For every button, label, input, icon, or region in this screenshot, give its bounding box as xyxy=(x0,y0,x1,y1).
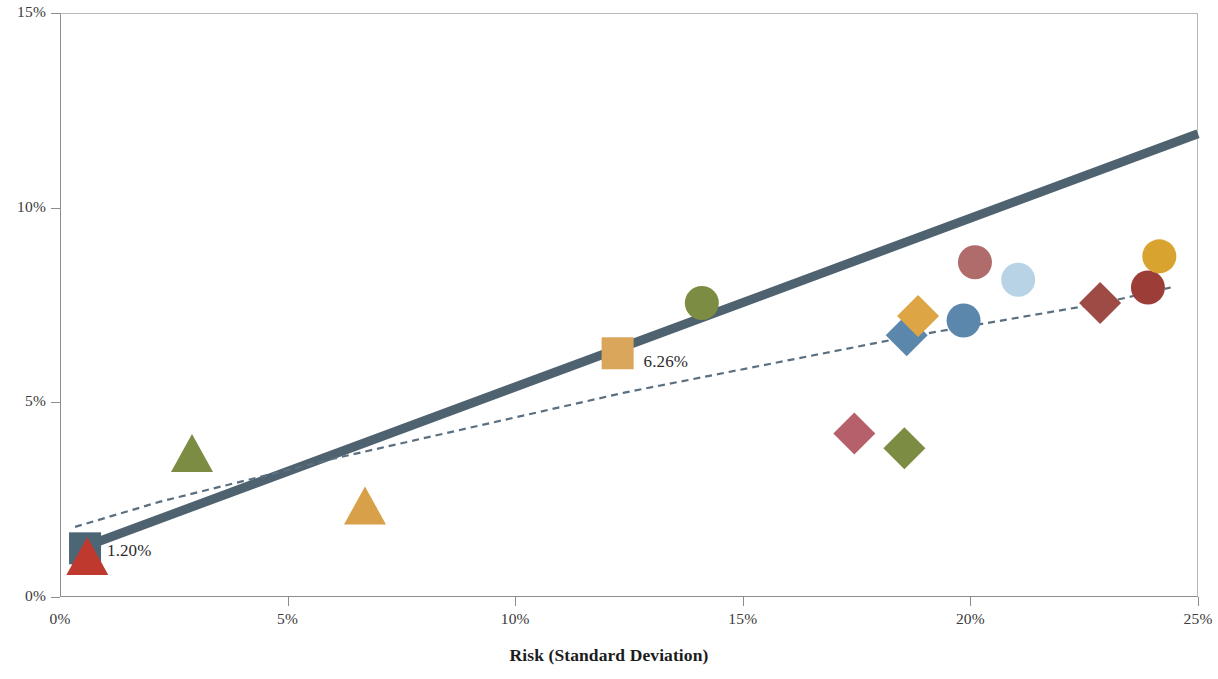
y-tick-mark xyxy=(51,402,60,403)
y-tick-mark xyxy=(51,597,60,598)
x-tick-mark xyxy=(743,597,744,606)
plot-area xyxy=(60,13,1198,597)
x-tick-mark xyxy=(970,597,971,606)
x-axis-title: Risk (Standard Deviation) xyxy=(0,645,1218,666)
x-tick-label: 25% xyxy=(1183,610,1212,628)
y-tick-label: 0% xyxy=(25,587,46,605)
y-tick-mark xyxy=(51,13,60,14)
x-tick-mark xyxy=(288,597,289,606)
x-tick-label: 20% xyxy=(956,610,985,628)
x-tick-label: 10% xyxy=(501,610,530,628)
y-tick-label: 10% xyxy=(17,198,46,216)
y-tick-label: 15% xyxy=(17,3,46,21)
y-tick-label: 5% xyxy=(25,392,46,410)
x-tick-mark xyxy=(1198,597,1199,606)
x-tick-mark xyxy=(515,597,516,606)
x-tick-label: 0% xyxy=(49,610,70,628)
x-tick-label: 15% xyxy=(728,610,757,628)
value-label-orange-square-mid: 6.26% xyxy=(644,352,688,372)
x-tick-label: 5% xyxy=(277,610,298,628)
y-tick-mark xyxy=(51,208,60,209)
value-label-origin-square: 1.20% xyxy=(107,541,151,561)
scatter-chart: 0%5%10%15% 0%5%10%15%20%25% 1.20%6.26% R… xyxy=(0,0,1218,679)
